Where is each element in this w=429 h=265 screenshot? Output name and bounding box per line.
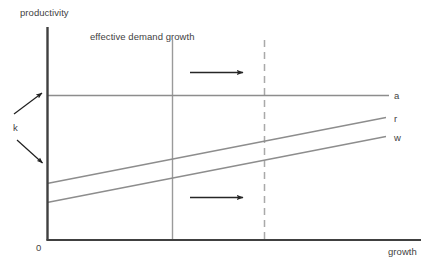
origin-label: 0 <box>36 243 41 253</box>
chart-canvas <box>0 0 429 265</box>
line-w-wage <box>47 137 386 203</box>
series-label-a: a <box>394 91 399 101</box>
k-upper-arrow-icon <box>14 93 42 114</box>
line-r-profit <box>47 118 386 184</box>
series-label-w: w <box>394 133 401 143</box>
effective-demand-growth-label: effective demand growth <box>90 32 194 42</box>
y-axis-label: productivity <box>20 8 69 18</box>
k-lower-arrow-icon <box>17 140 43 163</box>
gap-label-k: k <box>13 123 18 133</box>
x-axis-label: growth <box>388 247 417 257</box>
chart-figure: productivity growth 0 effective demand g… <box>0 0 429 265</box>
series-label-r: r <box>394 114 397 124</box>
